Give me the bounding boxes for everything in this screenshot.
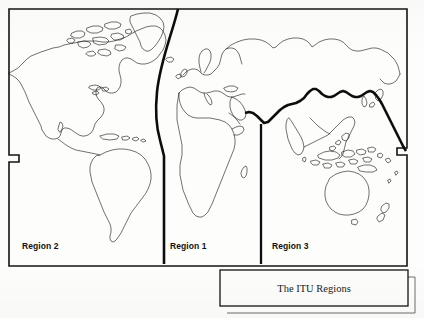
caption-label: The ITU Regions	[220, 270, 408, 306]
figure-root: Region 2 Region 1 Region 3 The ITU Regio…	[0, 0, 424, 318]
